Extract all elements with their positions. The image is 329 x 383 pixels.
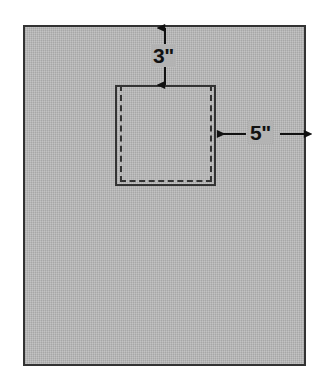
inner-square-dashed-outline — [120, 85, 212, 182]
dimension-label-top-margin: 3" — [151, 44, 176, 67]
outer-sheet-rectangle — [23, 25, 306, 366]
dimension-label-right-margin: 5" — [248, 121, 273, 144]
diagram-canvas: 3" 5" — [0, 0, 329, 383]
